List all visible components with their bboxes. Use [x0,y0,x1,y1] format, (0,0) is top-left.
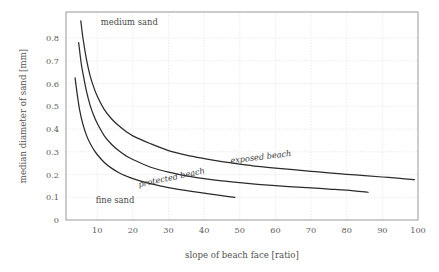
x-tick-label: 70 [306,225,316,235]
annotation-medium-sand: medium sand [101,17,159,27]
x-tick-label: 20 [128,225,138,235]
y-axis-title: median diameter of sand [mm] [18,49,28,183]
x-tick-label: 100 [410,225,426,235]
y-tick-label: 0 [54,215,59,225]
x-tick-label: 40 [199,225,209,235]
y-tick-label: 0.6 [46,79,59,89]
y-axis-tick-labels: 00.10.20.30.40.50.60.70.8 [46,33,59,225]
y-tick-label: 0.4 [46,124,59,134]
beach-sand-chart: 102030405060708090100 00.10.20.30.40.50.… [0,0,439,272]
x-tick-label: 50 [235,225,245,235]
y-tick-label: 0.3 [46,147,59,157]
x-tick-label: 90 [377,225,387,235]
x-tick-label: 60 [270,225,280,235]
x-tick-label: 10 [92,225,102,235]
y-tick-label: 0.2 [46,170,59,180]
x-tick-label: 30 [163,225,173,235]
y-tick-label: 0.1 [46,192,59,202]
chart-figure: 102030405060708090100 00.10.20.30.40.50.… [0,0,439,272]
y-tick-label: 0.8 [46,33,59,43]
y-tick-label: 0.7 [46,56,59,66]
x-tick-label: 80 [342,225,352,235]
annotation-fine-sand: fine sand [96,195,135,205]
x-axis-title: slope of beach face [ratio] [185,250,299,260]
y-tick-label: 0.5 [46,101,59,111]
